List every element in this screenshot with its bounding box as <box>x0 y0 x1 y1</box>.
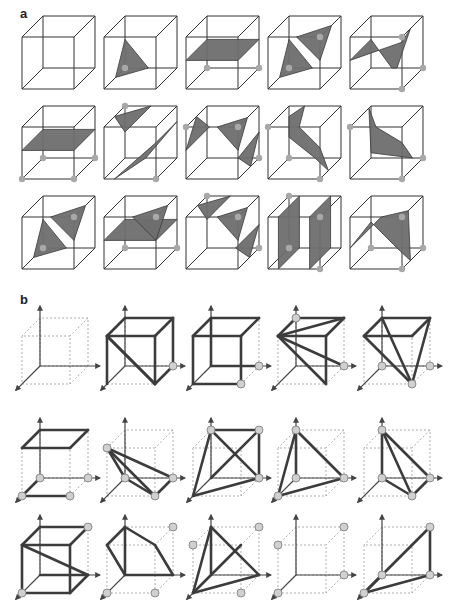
polygon-edge <box>107 527 125 545</box>
cube-config <box>268 193 341 272</box>
cube-edge <box>104 196 125 217</box>
vertex-circle <box>169 362 177 370</box>
cube-edge <box>22 196 43 217</box>
y-axis-arrow <box>16 366 40 390</box>
cube-config <box>350 16 426 92</box>
y-axis-arrow <box>187 366 211 390</box>
vertex-circle <box>151 492 159 500</box>
vertex-circle <box>66 492 74 500</box>
axes-config <box>187 418 271 502</box>
polygon-edge <box>155 318 173 336</box>
vertex-dot <box>40 155 46 161</box>
cube-config <box>104 103 177 182</box>
vertex-circle <box>340 362 348 370</box>
vertex-dot <box>368 245 374 251</box>
vertex-dot <box>286 155 292 161</box>
cube-edge <box>22 158 43 179</box>
vertex-circle <box>426 571 434 579</box>
axes-config <box>187 306 271 390</box>
cube-edge <box>74 158 95 179</box>
vertex-dot <box>286 193 292 199</box>
cube-edge <box>402 106 423 127</box>
y-axis-arrow <box>272 366 296 390</box>
vertex-dot <box>286 65 292 71</box>
vertex-dot <box>399 86 405 92</box>
cube-edge <box>74 16 95 37</box>
y-axis-arrow <box>358 478 382 502</box>
vertex-dot <box>204 65 210 71</box>
vertex-dot <box>122 65 128 71</box>
vertex-dot <box>399 176 405 182</box>
vertex-circle <box>255 362 263 370</box>
cube-edge <box>320 68 341 89</box>
vertex-circle <box>378 571 386 579</box>
cube-edge <box>186 158 207 179</box>
cube-config <box>186 16 262 89</box>
cube-edge <box>350 196 371 217</box>
dotted-cube-edge <box>70 318 88 336</box>
cube-config <box>265 106 341 182</box>
vertex-circle <box>292 426 300 434</box>
cube-edge <box>350 248 371 269</box>
isosurface-patch <box>217 118 247 151</box>
cube-edge <box>186 16 207 37</box>
isosurface-patch <box>310 196 331 269</box>
vertex-circle <box>18 492 26 500</box>
cube-edge <box>238 68 259 89</box>
polygon-edge <box>193 478 259 496</box>
cube-edge <box>156 248 177 269</box>
vertex-dot <box>256 155 262 161</box>
vertex-dot <box>317 34 323 40</box>
dotted-cube-edge <box>326 430 344 448</box>
vertex-circle <box>207 426 215 434</box>
cube-edge <box>104 16 125 37</box>
isosurface-patch <box>186 39 259 60</box>
vertex-dot <box>420 65 426 71</box>
vertex-dot <box>122 103 128 109</box>
cube-edge <box>268 158 289 179</box>
axes-config <box>16 515 100 599</box>
cube-edge <box>350 68 371 89</box>
vertex-circle <box>426 474 434 482</box>
vertex-circle <box>292 474 300 482</box>
cube-edge <box>350 158 371 179</box>
vertex-circle <box>18 589 26 597</box>
y-axis-arrow <box>101 478 125 502</box>
isosurface-patch <box>289 106 328 171</box>
polygon-edge <box>278 430 296 496</box>
cube-edge <box>268 106 289 127</box>
polygon-edge <box>278 336 344 366</box>
vertex-dot <box>153 176 159 182</box>
vertex-circle <box>189 541 197 549</box>
polygon-edge <box>382 318 412 384</box>
vertex-dot <box>317 266 323 272</box>
polygon-edge <box>22 527 40 545</box>
vertex-circle <box>255 426 263 434</box>
vertex-circle <box>340 474 348 482</box>
cube-config <box>347 106 426 182</box>
polygon-edge <box>193 318 211 336</box>
vertex-dot <box>122 245 128 251</box>
axes-config <box>358 306 442 390</box>
vertex-circle <box>274 492 282 500</box>
vertex-circle <box>103 589 111 597</box>
cube-config <box>186 193 262 269</box>
axes-config <box>272 306 356 390</box>
vertex-circle <box>84 523 92 531</box>
vertex-dot <box>265 124 271 130</box>
cube-config <box>268 16 341 89</box>
vertex-dot <box>347 124 353 130</box>
y-axis-arrow <box>101 366 125 390</box>
cube-edge <box>350 16 371 37</box>
cube-config <box>19 106 98 182</box>
vertex-circle <box>237 589 245 597</box>
cube-edge <box>268 16 289 37</box>
cube-config <box>22 196 95 269</box>
vertex-circle <box>274 541 282 549</box>
vertex-circle <box>408 492 416 500</box>
cube-edge <box>74 68 95 89</box>
vertex-circle <box>408 380 416 388</box>
cube-edge <box>104 248 125 269</box>
cube-config <box>104 16 177 89</box>
axes-config <box>358 418 442 502</box>
